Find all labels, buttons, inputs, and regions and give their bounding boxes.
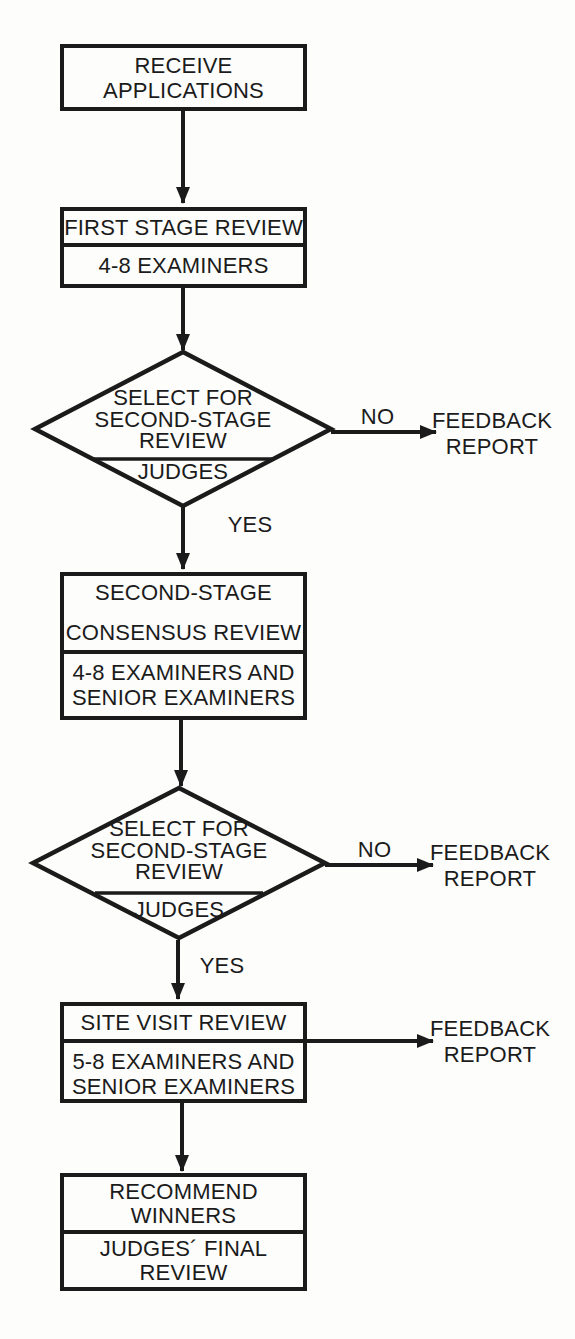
node-title-compartment: FIRST STAGE REVIEW — [64, 211, 303, 243]
node-text: REVIEW — [59, 861, 299, 883]
node-staff-compartment: 4-8 EXAMINERS AND SENIOR EXAMINERS — [64, 650, 303, 716]
terminal-text: FEEDBACK — [414, 840, 566, 866]
node-staff-compartment: 4-8 EXAMINERS — [64, 243, 303, 284]
edge-label-yes-1: YES — [210, 513, 290, 537]
node-text: RECEIVE — [135, 53, 233, 78]
node-receive-applications-body: RECEIVE APPLICATIONS — [64, 48, 303, 107]
node-first-stage-review: FIRST STAGE REVIEW 4-8 EXAMINERS — [60, 207, 307, 288]
node-text: APPLICATIONS — [103, 78, 264, 103]
node-text: JUDGES´ FINAL — [100, 1237, 268, 1261]
node-text: WINNERS — [131, 1204, 236, 1228]
node-staff-compartment: 5-8 EXAMINERS AND SENIOR EXAMINERS — [64, 1039, 303, 1099]
node-site-visit-review: SITE VISIT REVIEW 5-8 EXAMINERS AND SENI… — [60, 1002, 307, 1103]
node-text: SENIOR EXAMINERS — [72, 685, 295, 710]
node-second-stage-consensus-review: SECOND-STAGE CONSENSUS REVIEW 4-8 EXAMIN… — [60, 572, 307, 720]
terminal-feedback-report-2: FEEDBACK REPORT — [414, 840, 566, 892]
node-text: 4-8 EXAMINERS AND — [72, 660, 294, 685]
node-text: REVIEW — [140, 1261, 228, 1285]
terminal-text: FEEDBACK — [416, 408, 568, 434]
node-text: SECOND-STAGE — [63, 409, 303, 431]
edge-label-no-2: NO — [337, 838, 412, 862]
node-text: RECOMMEND — [109, 1180, 257, 1204]
terminal-text: REPORT — [416, 434, 568, 460]
node-text: FIRST STAGE REVIEW — [64, 215, 303, 240]
terminal-text: REPORT — [414, 1042, 566, 1068]
node-text: SENIOR EXAMINERS — [72, 1074, 295, 1099]
node-title-compartment: SITE VISIT REVIEW — [64, 1006, 303, 1039]
node-text: CONSENSUS REVIEW — [66, 613, 301, 653]
node-staff-compartment: JUDGES´ FINAL REVIEW — [64, 1230, 303, 1287]
terminal-text: REPORT — [414, 866, 566, 892]
node-text: 5-8 EXAMINERS AND — [72, 1049, 294, 1074]
flowchart-canvas: RECEIVE APPLICATIONS FIRST STAGE REVIEW … — [0, 0, 575, 1339]
decision-1-owner: JUDGES — [63, 461, 303, 483]
node-text: SECOND-STAGE — [95, 573, 272, 613]
node-text: SECOND-STAGE — [59, 840, 299, 862]
node-text: REVIEW — [63, 430, 303, 452]
node-text: 4-8 EXAMINERS — [98, 253, 268, 278]
node-title-compartment: RECOMMEND WINNERS — [64, 1177, 303, 1230]
edge-label-no-1: NO — [340, 405, 415, 429]
terminal-text: FEEDBACK — [414, 1016, 566, 1042]
terminal-feedback-report-3: FEEDBACK REPORT — [414, 1016, 566, 1068]
node-title-compartment: SECOND-STAGE CONSENSUS REVIEW — [64, 576, 303, 650]
node-text: SELECT FOR — [63, 387, 303, 409]
node-receive-applications: RECEIVE APPLICATIONS — [60, 44, 307, 111]
decision-2-owner: JUDGES — [59, 899, 299, 921]
node-recommend-winners: RECOMMEND WINNERS JUDGES´ FINAL REVIEW — [60, 1173, 307, 1291]
edge-label-yes-2: YES — [182, 954, 262, 978]
terminal-feedback-report-1: FEEDBACK REPORT — [416, 408, 568, 460]
decision-1-question: SELECT FOR SECOND-STAGE REVIEW — [63, 387, 303, 452]
decision-2-question: SELECT FOR SECOND-STAGE REVIEW — [59, 818, 299, 883]
node-text: SELECT FOR — [59, 818, 299, 840]
node-text: SITE VISIT REVIEW — [81, 1010, 287, 1035]
